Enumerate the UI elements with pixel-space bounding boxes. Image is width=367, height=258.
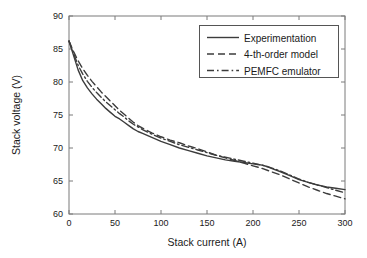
y-tick-label: 70 xyxy=(53,143,63,153)
x-tick-label: 250 xyxy=(291,218,306,228)
legend-item-fourth-order-model: 4-th-order model xyxy=(244,49,318,60)
y-tick-label: 90 xyxy=(53,11,63,21)
y-axis-title: Stack voltage (V) xyxy=(10,75,22,155)
legend-item-experimentation: Experimentation xyxy=(244,33,316,44)
chart-legend: Experimentation 4-th-order model PEMFC e… xyxy=(200,26,339,78)
y-tick-label: 75 xyxy=(53,110,63,120)
y-tick-label: 85 xyxy=(53,44,63,54)
x-tick-label: 200 xyxy=(245,218,260,228)
chart-figure: 050100150200250300 60657075808590 Stack … xyxy=(0,0,367,258)
y-tick-label: 60 xyxy=(53,209,63,219)
y-tick-label: 80 xyxy=(53,77,63,87)
x-tick-label: 300 xyxy=(337,218,352,228)
x-tick-label: 50 xyxy=(110,218,120,228)
x-axis-title: Stack current (A) xyxy=(168,236,247,248)
x-tick-label: 150 xyxy=(199,218,214,228)
chart-canvas: 050100150200250300 60657075808590 Stack … xyxy=(0,0,367,258)
x-tick-label: 100 xyxy=(153,218,168,228)
y-tick-label: 65 xyxy=(53,176,63,186)
x-tick-labels: 050100150200250300 xyxy=(66,218,352,228)
legend-item-pemfc-emulator: PEMFC emulator xyxy=(244,66,321,77)
y-tick-labels: 60657075808590 xyxy=(53,11,63,219)
x-tick-label: 0 xyxy=(66,218,71,228)
